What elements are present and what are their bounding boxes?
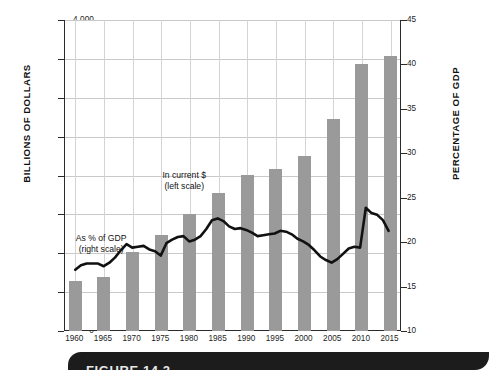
y-axis-right-tick-label: 15 [407,282,447,291]
annotation-as-percent-of-gdp-line2: (right scale) [41,244,161,255]
y-axis-left-tick-mark [58,331,64,332]
y-axis-right-tick-mark [401,153,407,154]
y-axis-right-tick-label: 40 [407,59,447,68]
y-axis-right-tick-label: 35 [407,104,447,113]
x-axis-tick-label: 2015 [370,334,410,343]
annotation-in-current-dollars-line1: In current $ [124,170,244,181]
annotation-as-percent-of-gdp: As % of GDP (right scale) [41,233,161,255]
chart-area: BILLIONS OF DOLLARS PERCENTAGE OF GDP 05… [0,0,489,348]
y-axis-right-tick-label: 30 [407,148,447,157]
figure-caption-label: FIGURE 14.2 [86,363,171,370]
y-axis-right-title: PERCENTAGE OF GDP [450,24,461,224]
y-axis-right-tick-label: 25 [407,193,447,202]
y-axis-right-tick-mark [401,198,407,199]
y-axis-right-tick-mark [401,331,407,332]
y-axis-right-tick-label: 45 [407,15,447,24]
figure-card: BILLIONS OF DOLLARS PERCENTAGE OF GDP 05… [0,0,489,370]
y-axis-right-tick-mark [401,64,407,65]
plot-area: In current $ (left scale) As % of GDP (r… [64,20,401,331]
y-axis-right-tick-label: 10 [407,326,447,335]
y-axis-right-tick-mark [401,287,407,288]
y-axis-left-title: BILLIONS OF DOLLARS [21,24,32,224]
y-axis-right-tick-mark [401,20,407,21]
annotation-as-percent-of-gdp-line1: As % of GDP [41,233,161,244]
y-axis-right-tick-mark [401,109,407,110]
annotation-in-current-dollars-line2: (left scale) [124,181,244,192]
y-axis-right-tick-mark [401,242,407,243]
y-axis-right-tick-label: 20 [407,237,447,246]
annotation-in-current-dollars: In current $ (left scale) [124,170,244,192]
figure-caption-strip: FIGURE 14.2 [68,352,489,370]
